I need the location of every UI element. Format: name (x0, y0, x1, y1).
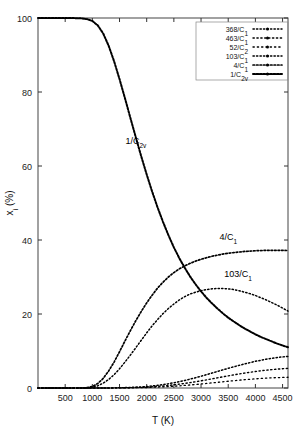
y-tick-label: 40 (22, 236, 32, 246)
legend-marker-463-C1 (266, 37, 269, 40)
x-tick-label: 3000 (191, 393, 211, 403)
annotation-1-C2v: 1/C2v (125, 136, 147, 149)
legend-label-1-C2v: 1/C2v (230, 71, 249, 82)
figure-container: 5001000150020002500300035004000450002040… (0, 0, 300, 438)
legend-marker-4-C1 (266, 64, 269, 67)
series-curve-368-C1 (38, 356, 288, 388)
y-tick-label: 100 (17, 14, 32, 24)
series-curve-463-C1 (38, 368, 288, 388)
series-curve-52-C2 (38, 377, 288, 388)
annotation-103-C1: 103/C1 (224, 269, 252, 282)
x-tick-label: 4500 (273, 393, 293, 403)
legend-marker-1-C2v (266, 73, 269, 76)
legend-marker-368-C1 (266, 28, 269, 31)
x-tick-label: 3500 (218, 393, 238, 403)
x-axis-title: T (K) (152, 415, 174, 426)
series-curve-103-C1 (38, 288, 288, 388)
chart-svg: 5001000150020002500300035004000450002040… (0, 0, 300, 438)
x-tick-label: 500 (58, 393, 73, 403)
series-curve-4-C1 (38, 250, 288, 388)
series-curve-1-C2v (38, 18, 288, 347)
legend-marker-52-C2 (266, 46, 269, 49)
x-tick-label: 2000 (137, 393, 157, 403)
y-tick-label: 80 (22, 88, 32, 98)
y-tick-label: 0 (27, 384, 32, 394)
x-tick-label: 1500 (110, 393, 130, 403)
annotation-4-C1: 4/C1 (219, 232, 237, 245)
y-tick-label: 20 (22, 310, 32, 320)
x-tick-label: 2500 (164, 393, 184, 403)
x-tick-label: 1000 (82, 393, 102, 403)
y-tick-label: 60 (22, 162, 32, 172)
y-axis-title: xi (%) (4, 190, 20, 215)
x-tick-label: 4000 (245, 393, 265, 403)
legend-marker-103-C1 (266, 55, 269, 58)
